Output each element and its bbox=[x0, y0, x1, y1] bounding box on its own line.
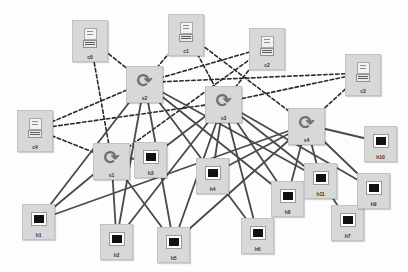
node-label: h5 bbox=[158, 255, 189, 262]
edge-c4-s3 bbox=[35, 103, 224, 130]
client-terminal-icon bbox=[169, 15, 203, 48]
host-monitor-icon bbox=[365, 127, 396, 154]
node-label: h6 bbox=[242, 246, 273, 253]
switch-circular-arrow-icon: ⟳ bbox=[94, 144, 129, 172]
node-c3[interactable]: c3 bbox=[345, 54, 381, 96]
node-c0[interactable]: c0 bbox=[72, 20, 108, 62]
node-label: h2 bbox=[101, 252, 132, 259]
host-monitor-icon bbox=[358, 174, 389, 201]
host-monitor-icon bbox=[135, 143, 166, 170]
node-h9[interactable]: h9 bbox=[357, 173, 390, 209]
node-s4[interactable]: ⟳s4 bbox=[288, 108, 325, 145]
node-h7[interactable]: h7 bbox=[331, 205, 364, 241]
node-label: s3 bbox=[206, 115, 241, 122]
edge-c3-s2 bbox=[145, 73, 364, 83]
node-label: h7 bbox=[332, 233, 363, 240]
edge-c3-s3 bbox=[224, 73, 364, 103]
node-h11[interactable]: h11 bbox=[304, 163, 337, 199]
host-monitor-icon bbox=[158, 228, 189, 255]
client-terminal-icon bbox=[346, 55, 380, 88]
switch-circular-arrow-icon: ⟳ bbox=[206, 87, 241, 115]
node-s1[interactable]: ⟳s1 bbox=[93, 143, 130, 180]
node-h8[interactable]: h8 bbox=[271, 181, 304, 217]
node-label: h1 bbox=[23, 232, 54, 239]
network-topology-diagram: c0c1c2c3c4⟳s1⟳s2⟳s3⟳s4h1h2h3h4h5h6h7h8h9… bbox=[0, 0, 408, 272]
host-monitor-icon bbox=[23, 205, 54, 232]
node-label: c2 bbox=[250, 62, 284, 69]
node-label: h8 bbox=[272, 209, 303, 216]
node-h4[interactable]: h4 bbox=[196, 158, 229, 194]
host-monitor-icon bbox=[101, 225, 132, 252]
node-c2[interactable]: c2 bbox=[249, 28, 285, 70]
switch-circular-arrow-icon: ⟳ bbox=[127, 67, 162, 95]
host-monitor-icon bbox=[272, 182, 303, 209]
client-terminal-icon bbox=[18, 111, 52, 144]
node-label: h9 bbox=[358, 201, 389, 208]
node-label: c3 bbox=[346, 88, 380, 95]
node-label: c1 bbox=[169, 48, 203, 55]
node-c1[interactable]: c1 bbox=[168, 14, 204, 56]
node-label: c0 bbox=[73, 54, 107, 61]
host-monitor-icon bbox=[332, 206, 363, 233]
node-h2[interactable]: h2 bbox=[100, 224, 133, 260]
node-label: h3 bbox=[135, 170, 166, 177]
switch-circular-arrow-icon: ⟳ bbox=[289, 109, 324, 137]
host-monitor-icon bbox=[197, 159, 228, 186]
node-s3[interactable]: ⟳s3 bbox=[205, 86, 242, 123]
node-label: c4 bbox=[18, 144, 52, 151]
host-monitor-icon bbox=[242, 219, 273, 246]
node-h5[interactable]: h5 bbox=[157, 227, 190, 263]
node-h1[interactable]: h1 bbox=[22, 204, 55, 240]
node-label: h10 bbox=[365, 154, 396, 161]
node-label: h11 bbox=[305, 191, 336, 198]
client-terminal-icon bbox=[250, 29, 284, 62]
node-label: s2 bbox=[127, 95, 162, 102]
node-label: h4 bbox=[197, 186, 228, 193]
node-h10[interactable]: h10 bbox=[364, 126, 397, 162]
node-c4[interactable]: c4 bbox=[17, 110, 53, 152]
node-h3[interactable]: h3 bbox=[134, 142, 167, 178]
client-terminal-icon bbox=[73, 21, 107, 54]
node-label: s4 bbox=[289, 137, 324, 144]
edge-s4-h1 bbox=[39, 125, 307, 221]
node-h6[interactable]: h6 bbox=[241, 218, 274, 254]
node-label: s1 bbox=[94, 172, 129, 179]
node-s2[interactable]: ⟳s2 bbox=[126, 66, 163, 103]
host-monitor-icon bbox=[305, 164, 336, 191]
